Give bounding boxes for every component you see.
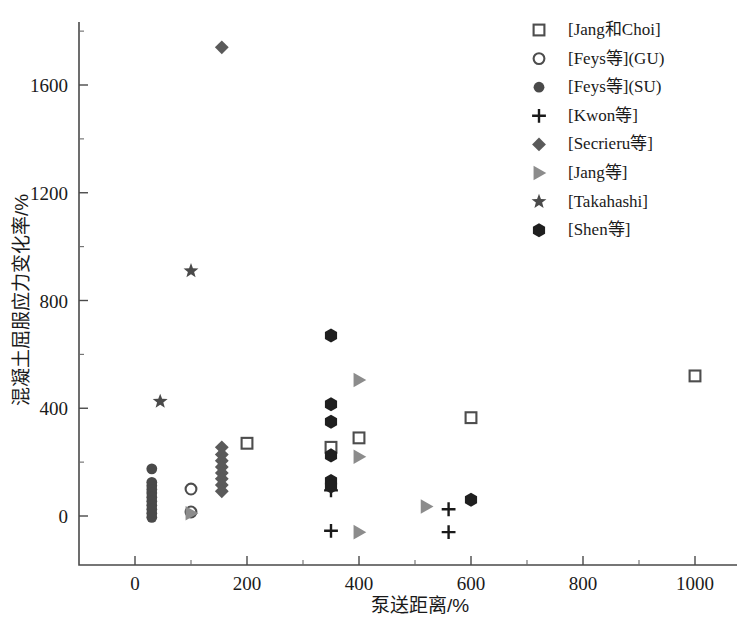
data-point (690, 371, 701, 382)
data-point (184, 263, 199, 277)
legend-label-1: [Feys等](GU) (568, 49, 664, 68)
y-axis-title: 混凝土屈服应力变化率/% (11, 194, 32, 406)
data-point (242, 438, 253, 449)
legend-label-2: [Feys等](SU) (568, 77, 662, 96)
x-axis-title: 泵送距离/% (371, 595, 469, 616)
legend-label-3: [Kwon等] (568, 106, 638, 125)
data-point (325, 448, 337, 462)
x-tick-label: 600 (457, 573, 486, 594)
x-tick-label: 1000 (676, 573, 714, 594)
data-point (325, 415, 337, 429)
data-point (442, 502, 456, 516)
data-point (153, 394, 168, 408)
y-tick-label: 1600 (30, 75, 68, 96)
legend-marker-5 (534, 166, 547, 181)
data-point (146, 512, 157, 523)
data-point (354, 525, 367, 540)
series-3 (324, 484, 455, 540)
data-point (354, 373, 367, 388)
data-point (466, 412, 477, 423)
chart-legend: [Jang和Choi][Feys等](GU)[Feys等](SU)[Kwon等]… (532, 20, 665, 239)
y-tick-label: 800 (40, 291, 69, 312)
y-tick-label: 400 (40, 398, 69, 419)
legend-label-4: [Secrieru等] (568, 134, 653, 153)
legend-marker-3 (532, 109, 546, 123)
x-tick-label: 800 (569, 573, 598, 594)
series-0 (242, 371, 701, 453)
data-point (421, 499, 434, 514)
series-7 (325, 329, 477, 507)
x-tick-label: 0 (130, 573, 140, 594)
y-tick-label: 1200 (30, 183, 68, 204)
legend-marker-0 (534, 25, 545, 36)
legend-marker-4 (532, 137, 546, 151)
axis-frame (79, 22, 737, 565)
series-4 (215, 40, 229, 498)
data-point (465, 493, 477, 507)
x-tick-label: 400 (345, 573, 374, 594)
data-point (215, 40, 229, 54)
series-2 (146, 463, 157, 522)
legend-label-5: [Jang等] (568, 163, 627, 182)
legend-label-7: [Shen等] (568, 220, 630, 239)
scatter-chart-figure: 02004006008001000040080012001600 [Jang和C… (0, 0, 754, 625)
x-tick-label: 200 (233, 573, 262, 594)
data-point (325, 329, 337, 343)
legend-marker-7 (533, 223, 545, 237)
legend-marker-1 (534, 53, 545, 64)
plot-canvas: 02004006008001000040080012001600 [Jang和C… (0, 0, 754, 625)
data-point (354, 432, 365, 443)
data-point (186, 506, 199, 521)
legend-marker-2 (534, 82, 545, 93)
legend-marker-6 (532, 194, 547, 208)
data-point (442, 525, 456, 539)
data-point (324, 524, 338, 538)
y-tick-label: 0 (59, 506, 69, 527)
data-point (146, 463, 157, 474)
series-6 (153, 263, 199, 408)
data-point (325, 397, 337, 411)
data-point (354, 449, 367, 464)
legend-label-0: [Jang和Choi] (568, 20, 661, 39)
axes (79, 22, 737, 565)
data-point (186, 484, 197, 495)
legend-label-6: [Takahashi] (568, 192, 648, 211)
